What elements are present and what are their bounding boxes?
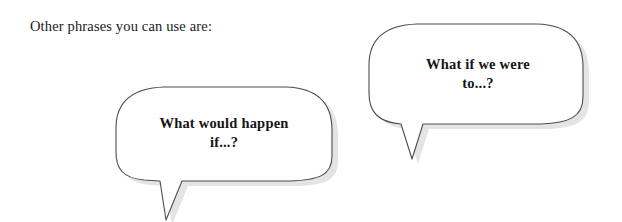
bubble-text-line-1: What if we were [426,56,530,72]
document-canvas: Other phrases you can use are: What woul… [0,0,622,222]
speech-bubble-what-would-happen: What would happen if...? [104,82,344,222]
bubble-text-block: What if we were to...? [393,55,563,93]
intro-paragraph: Other phrases you can use are: [30,17,212,35]
bubble-outline [116,87,332,220]
speech-bubble-shape [104,82,344,222]
bubble-text-line-1: What would happen [159,115,288,131]
bubble-text-line-2: to...? [462,75,493,91]
speech-bubble-what-if-we-were-to: What if we were to...? [361,19,593,165]
bubble-text-block: What would happen if...? [130,114,318,152]
bubble-text-line-2: if...? [210,134,238,150]
